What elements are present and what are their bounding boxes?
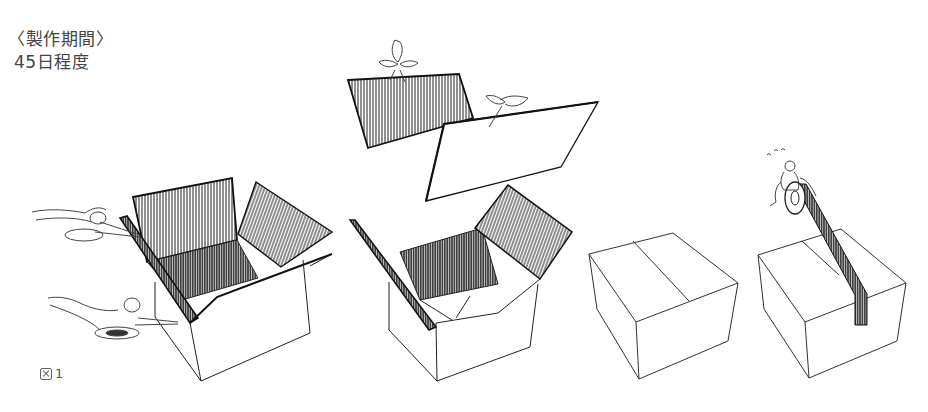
illustration-canvas [0, 0, 928, 412]
step-1-open-box-with-scissors [32, 178, 332, 381]
step-2-flaps-lifted [348, 40, 598, 381]
scissors-bottom-icon [48, 297, 178, 339]
figure-number: 1 [55, 366, 63, 381]
step-3-closed-box [589, 233, 738, 379]
step-4-taping-box [758, 149, 906, 379]
figure-icon [40, 368, 52, 380]
figure-label: 1 [40, 366, 63, 381]
